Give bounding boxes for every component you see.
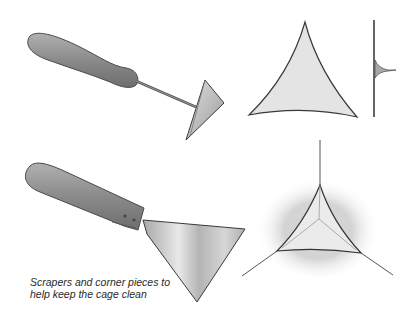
corner-piece-side (374, 20, 396, 117)
rivet (123, 214, 126, 217)
caption: Scrapers and corner pieces to help keep … (30, 276, 220, 300)
handle (25, 163, 144, 230)
handle (28, 33, 138, 87)
caption-line-1: Scrapers and corner pieces to (30, 276, 220, 288)
rivet (132, 218, 135, 221)
corner-piece-installed (242, 140, 393, 277)
corner-piece-front (249, 22, 357, 117)
caption-line-2: help keep the cage clean (30, 288, 220, 300)
hoe-scraper (28, 33, 224, 140)
